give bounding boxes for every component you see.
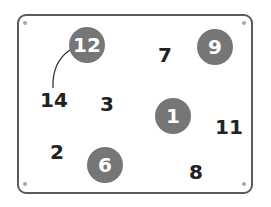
number-6[interactable]: 6 (87, 147, 123, 183)
number-1[interactable]: 1 (155, 98, 191, 134)
number-9[interactable]: 9 (197, 29, 233, 65)
number-11[interactable]: 11 (215, 117, 243, 137)
number-7[interactable]: 7 (158, 45, 172, 65)
number-12[interactable]: 12 (69, 27, 105, 63)
connection-12-to-14 (53, 50, 70, 88)
number-2[interactable]: 2 (50, 142, 64, 162)
number-8[interactable]: 8 (189, 162, 203, 182)
number-14[interactable]: 14 (40, 90, 68, 110)
number-3[interactable]: 3 (100, 94, 114, 114)
